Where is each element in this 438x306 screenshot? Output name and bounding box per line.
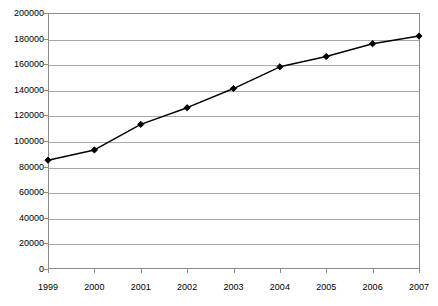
x-axis: 199920002001200220032004200520062007	[0, 0, 438, 306]
line-chart: 0200004000060000800001000001200001400001…	[0, 0, 438, 306]
x-axis-tick	[326, 269, 327, 273]
x-axis-tick	[419, 269, 420, 273]
x-axis-tick	[187, 269, 188, 273]
x-axis-tick	[280, 269, 281, 273]
x-axis-tick-label: 1999	[25, 283, 71, 292]
x-axis-tick-label: 2002	[164, 283, 210, 292]
x-axis-tick	[373, 269, 374, 273]
x-axis-tick-label: 2007	[396, 283, 438, 292]
x-axis-tick-label: 2006	[350, 283, 396, 292]
x-axis-tick-label: 2005	[303, 283, 349, 292]
x-axis-tick	[48, 269, 49, 273]
x-axis-tick-label: 2004	[257, 283, 303, 292]
x-axis-tick	[141, 269, 142, 273]
x-axis-tick	[234, 269, 235, 273]
x-axis-tick-label: 2001	[118, 283, 164, 292]
x-axis-tick-label: 2003	[211, 283, 257, 292]
x-axis-tick-label: 2000	[71, 283, 117, 292]
x-axis-tick	[94, 269, 95, 273]
